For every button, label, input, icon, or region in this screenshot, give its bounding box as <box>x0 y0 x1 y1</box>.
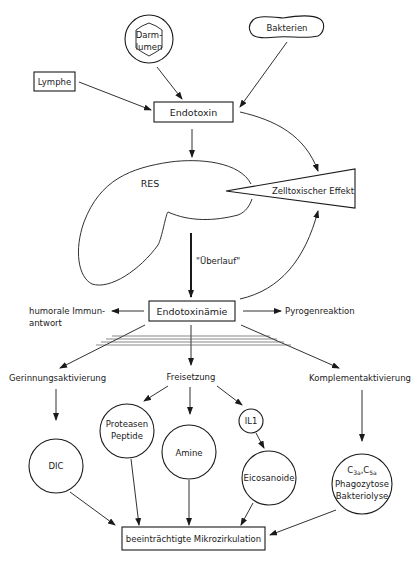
edge-eicosanoide-mikro <box>241 503 253 525</box>
darmlumen-label-2: lumen <box>136 42 163 52</box>
gerinnung-label: Gerinnungsaktivierung <box>9 373 106 383</box>
edge-komplement <box>241 325 339 368</box>
edge-darmlumen-endotoxin <box>157 67 182 99</box>
amine-label: Amine <box>175 448 202 458</box>
dic-label: DIC <box>49 461 64 471</box>
node-dic: DIC <box>29 439 83 493</box>
edge-bakterien-endotoxin <box>240 42 287 107</box>
komplement-label: Komplementaktivierung <box>309 373 411 383</box>
edge-lymphe-endotoxin <box>79 82 151 110</box>
zelltoxisch-label: Zelltoxischer Effekt <box>272 186 355 196</box>
edge-freisetzung-il1 <box>217 386 242 405</box>
bakterien-label: Bakterien <box>267 23 308 33</box>
proteasen-label-1: Proteasen <box>106 419 148 429</box>
humorale-label-1: humorale Immun- <box>29 306 105 316</box>
pyrogen-label: Pyrogenreaktion <box>285 306 355 316</box>
lymphe-label: Lymphe <box>38 77 71 87</box>
node-complement-products: C3a,C5a Phagozytose Bakteriolyse <box>332 454 392 514</box>
edge-endotoxinaemie-zelltoxisch <box>240 211 318 299</box>
eicosanoide-label: Eicosanoide <box>244 473 295 483</box>
mikrozirkulation-label: beeinträchtigte Mikrozirkulation <box>126 534 261 544</box>
edge-dic-mikro <box>70 492 115 525</box>
node-endotoxinaemie: Endotoxinämie <box>149 301 235 321</box>
node-lymphe: Lymphe <box>34 72 75 91</box>
edge-gerinnung <box>60 325 145 368</box>
edge-il1-eicosanoide <box>256 433 264 448</box>
darmlumen-label-1: Darm- <box>136 30 162 40</box>
edge-freisetzung-proteasen <box>144 386 168 401</box>
humorale-label-2: antwort <box>29 318 63 328</box>
hatch-lines <box>96 336 291 345</box>
complement-line-2: Phagozytose <box>335 479 389 489</box>
complement-line-3: Bakteriolyse <box>336 491 389 501</box>
ueberlauf-label: "Überlauf" <box>196 256 240 266</box>
node-eicosanoide: Eicosanoide <box>242 451 296 505</box>
endotoxin-pathway-diagram: Darm- lumen Bakterien Lymphe Endotoxin R… <box>0 0 420 566</box>
proteasen-label-2: Peptide <box>111 431 143 441</box>
endotoxin-label: Endotoxin <box>170 107 217 118</box>
node-endotoxin: Endotoxin <box>154 102 233 122</box>
node-mikrozirkulation: beeinträchtigte Mikrozirkulation <box>122 527 265 550</box>
node-il1: IL1 <box>239 409 263 433</box>
edge-proteasen-mikro <box>131 459 139 525</box>
node-res: RES <box>78 161 252 285</box>
edge-endotoxin-zelltoxisch <box>240 112 318 171</box>
endotoxinaemie-label: Endotoxinämie <box>157 306 228 317</box>
freisetzung-label: Freisetzung <box>167 372 216 382</box>
node-darmlumen: Darm- lumen <box>125 15 173 63</box>
res-label: RES <box>141 178 160 189</box>
node-amine: Amine <box>162 425 216 479</box>
il1-label: IL1 <box>245 416 258 426</box>
node-proteasen-peptide: Proteasen Peptide <box>100 404 154 458</box>
node-zelltoxischer-effekt: Zelltoxischer Effekt <box>226 169 355 208</box>
edge-complement-mikro <box>270 510 336 535</box>
node-bakterien: Bakterien <box>250 16 324 38</box>
